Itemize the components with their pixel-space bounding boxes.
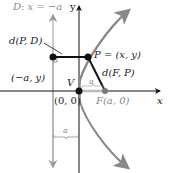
x-axis-label: x: [157, 95, 163, 106]
point-vertex: [76, 88, 83, 95]
a-label-bottom: a: [63, 126, 68, 135]
focus-label: F(a, 0): [95, 95, 130, 106]
vertex-label: V: [67, 77, 76, 88]
point-P: [85, 54, 92, 61]
directrix-label: D: x = −a: [12, 1, 62, 12]
point-focus: [102, 88, 108, 94]
a-label-top: a: [89, 77, 94, 86]
y-axis-label: y: [69, 1, 76, 12]
point-directrix: [50, 54, 57, 61]
a-brace-bottom: [54, 135, 78, 139]
dist-FP-label: d(F, P): [102, 67, 135, 78]
point-directrix-label: (−a, y): [11, 72, 45, 83]
point-P-label: P = (x, y): [93, 49, 141, 60]
origin-label: (0, 0): [54, 95, 81, 106]
parabola-diagram: D: x = −a y x d(P, D) P = (x, y) d(F, P)…: [0, 0, 171, 173]
dist-PD-label: d(P, D): [9, 35, 42, 46]
